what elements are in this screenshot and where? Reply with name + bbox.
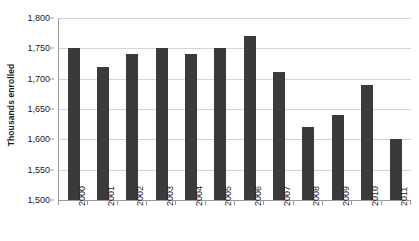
bar [273,72,285,200]
x-axis-tick-mark [175,200,176,205]
x-axis-tick-label-text: 2001 [106,186,116,206]
x-axis-tick-label-text: 2005 [223,186,233,206]
x-axis-tick-mark [205,200,206,205]
bar [185,54,197,200]
bar-series [59,18,411,200]
y-axis-tick-mark [50,139,54,140]
x-axis-tick-label-text: 2000 [77,186,87,206]
y-axis-tick-label: 1,750 [27,43,50,53]
y-axis-tick-label: 1,600 [27,134,50,144]
x-axis-tick-mark [263,200,264,205]
x-axis-tick-label: 2005 [223,206,253,216]
bar [244,36,256,200]
y-axis-tick-mark [50,200,54,201]
x-axis-tick-label: 2004 [194,206,224,216]
x-axis-tick-mark [146,200,147,205]
x-axis-tick-label: 2010 [370,206,400,216]
y-axis-title-label: Thousands enrolled [6,64,16,147]
x-axis-tick-label: 2011 [399,206,419,216]
x-axis-tick-mark [58,200,59,205]
y-axis-tick-label: 1,800 [27,13,50,23]
x-axis-tick-label: 2009 [341,206,371,216]
x-axis-tick-mark [234,200,235,205]
x-axis-tick-mark [87,200,88,205]
x-axis-tick-mark [381,200,382,205]
x-axis-tick-mark [410,200,411,205]
x-axis-tick-label-text: 2010 [370,186,380,206]
bar-chart: Thousands enrolled 1,8001,7501,7001,6501… [0,0,419,241]
x-axis-tick-labels: 2000200120022003200420052006200720082009… [58,206,411,241]
x-axis-tick-label: 2006 [253,206,283,216]
bar [361,85,373,200]
y-axis-tick-mark [50,78,54,79]
y-axis-tick-mark [50,169,54,170]
x-axis-tick-mark [293,200,294,205]
y-axis-tick-label: 1,700 [27,74,50,84]
x-axis-tick-label-text: 2004 [194,186,204,206]
x-axis-tick-label-text: 2009 [341,186,351,206]
y-axis-title: Thousands enrolled [0,0,22,210]
x-axis-tick-label-text: 2008 [311,186,321,206]
x-axis-tick-label-text: 2003 [165,186,175,206]
x-axis-tick-mark [351,200,352,205]
plot-area [58,18,411,201]
y-axis-tick-label: 1,500 [27,195,50,205]
x-axis-tick-label: 2001 [106,206,136,216]
x-axis-tick-label: 2008 [311,206,341,216]
x-axis-tick-label: 2002 [135,206,165,216]
y-axis-tick-label: 1,550 [27,165,50,175]
x-axis-tick-label: 2003 [165,206,195,216]
x-axis-tick-label: 2007 [282,206,312,216]
y-axis-tick-labels: 1,8001,7501,7001,6501,6001,5501,500 [20,0,54,210]
bar [97,67,109,200]
bar [156,48,168,200]
x-axis-tick-label-text: 2002 [135,186,145,206]
x-axis-tick-mark [322,200,323,205]
bar [68,48,80,200]
x-axis-tick-label: 2000 [77,206,107,216]
y-axis-tick-mark [50,48,54,49]
x-axis-tick-mark [117,200,118,205]
y-axis-tick-mark [50,18,54,19]
bar [126,54,138,200]
y-axis-tick-label: 1,650 [27,104,50,114]
x-axis-tick-label-text: 2007 [282,186,292,206]
x-axis-tick-label-text: 2011 [399,187,409,206]
bar [214,48,226,200]
y-axis-tick-mark [50,109,54,110]
x-axis-tick-label-text: 2006 [253,186,263,206]
